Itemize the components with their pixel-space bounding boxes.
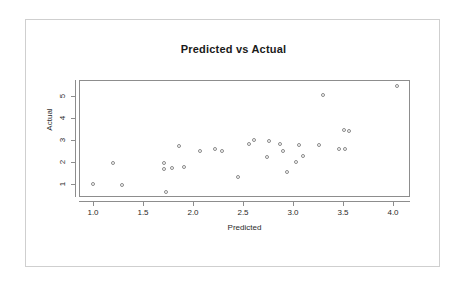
y-tick-label: 2 xyxy=(59,155,67,169)
x-tick-mark xyxy=(193,202,194,206)
y-tick-label: 5 xyxy=(59,89,67,103)
scatter-point xyxy=(162,167,166,171)
scatter-point xyxy=(247,142,251,146)
scatter-point xyxy=(297,143,301,147)
scatter-point xyxy=(395,84,399,88)
x-tick-label: 2.5 xyxy=(228,208,258,217)
y-tick-mark xyxy=(71,162,75,163)
scatter-point xyxy=(120,183,124,187)
scatter-point xyxy=(252,138,256,142)
scatter-point xyxy=(236,175,240,179)
x-tick-label: 3.0 xyxy=(278,208,308,217)
figure-frame: Predicted vs Actual Actual 12345 Predict… xyxy=(25,19,440,267)
scatter-point xyxy=(343,147,347,151)
x-tick-label: 4.0 xyxy=(378,208,408,217)
scatter-point xyxy=(170,166,174,170)
y-tick-mark xyxy=(71,140,75,141)
x-tick-mark xyxy=(243,202,244,206)
x-tick-label: 2.0 xyxy=(178,208,208,217)
y-tick-mark xyxy=(71,96,75,97)
x-tick-mark xyxy=(393,202,394,206)
scatter-point xyxy=(337,147,341,151)
x-axis-line xyxy=(79,201,410,202)
scatter-point xyxy=(164,190,168,194)
y-tick-label: 1 xyxy=(59,177,67,191)
scatter-point xyxy=(220,149,224,153)
scatter-point xyxy=(111,161,115,165)
scatter-point xyxy=(198,149,202,153)
scatter-points-layer xyxy=(80,81,409,196)
scatter-point xyxy=(285,170,289,174)
scatter-point xyxy=(347,129,351,133)
scatter-point xyxy=(162,161,166,165)
plot-area xyxy=(79,80,410,197)
scatter-point xyxy=(177,144,181,148)
scatter-point xyxy=(182,165,186,169)
x-tick-label: 1.0 xyxy=(78,208,108,217)
scatter-point xyxy=(321,93,325,97)
scatter-point xyxy=(301,154,305,158)
page-title: Predicted vs Actual xyxy=(26,43,441,55)
y-tick-label: 4 xyxy=(59,111,67,125)
y-axis-title: Actual xyxy=(45,100,54,140)
y-axis-line xyxy=(75,80,76,197)
x-axis-title: Predicted xyxy=(79,223,410,232)
scatter-point xyxy=(281,149,285,153)
figure-screenshot: Predicted vs Actual Actual 12345 Predict… xyxy=(0,0,465,286)
y-tick-mark xyxy=(71,118,75,119)
x-tick-mark xyxy=(293,202,294,206)
y-tick-label: 3 xyxy=(59,133,67,147)
y-tick-mark xyxy=(71,184,75,185)
x-tick-label: 1.5 xyxy=(128,208,158,217)
scatter-point xyxy=(294,160,298,164)
scatter-point xyxy=(317,143,321,147)
scatter-point xyxy=(91,182,95,186)
x-tick-label: 3.5 xyxy=(328,208,358,217)
scatter-point xyxy=(267,139,271,143)
x-tick-mark xyxy=(93,202,94,206)
x-tick-mark xyxy=(143,202,144,206)
scatter-point xyxy=(342,128,346,132)
scatter-point xyxy=(278,142,282,146)
x-tick-mark xyxy=(343,202,344,206)
scatter-point xyxy=(213,147,217,151)
scatter-point xyxy=(265,155,269,159)
